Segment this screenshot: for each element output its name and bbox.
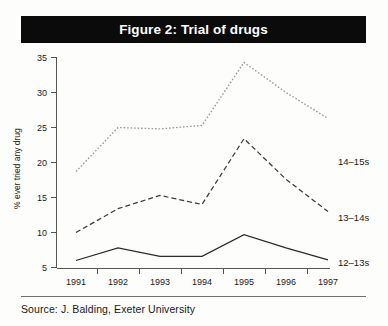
series-line-13-14s [76, 139, 328, 233]
x-tick-label-1994: 1994 [192, 277, 212, 287]
x-tick-label-1993: 1993 [150, 277, 170, 287]
source-divider [21, 296, 366, 297]
chart-plot-area: 35 30 25 20 15 10 5 % ever tried any dru… [0, 44, 388, 289]
y-tick-label-25: 25 [37, 123, 47, 133]
series-label-13-14s: 13–14s [338, 212, 369, 223]
figure-title-bar: Figure 2: Trial of drugs [21, 16, 366, 43]
series-line-12-13s [76, 235, 328, 261]
source-caption: Source: J. Balding, Exeter University [21, 303, 195, 315]
x-tick-label-1996: 1996 [276, 277, 296, 287]
figure-container: Figure 2: Trial of drugs 35 30 25 20 [0, 0, 388, 326]
series-label-12-13s: 12–13s [338, 257, 369, 268]
series-line-14-15s [76, 62, 328, 171]
x-tick-label-1992: 1992 [108, 277, 128, 287]
y-tick-label-30: 30 [37, 88, 47, 98]
y-axis-title: % ever tried any drug [12, 128, 22, 209]
y-tick-label-20: 20 [37, 158, 47, 168]
y-tick-label-15: 15 [37, 193, 47, 203]
x-tick-label-1997: 1997 [318, 277, 338, 287]
y-axis-ticks [51, 58, 56, 268]
y-tick-label-5: 5 [42, 263, 47, 273]
page-title: Figure 2: Trial of drugs [119, 22, 268, 37]
y-tick-label-35: 35 [37, 53, 47, 63]
series-label-14-15s: 14–15s [338, 156, 369, 167]
y-tick-label-10: 10 [37, 228, 47, 238]
x-axis-ticks [98, 269, 308, 274]
x-tick-label-1995: 1995 [234, 277, 254, 287]
line-chart-svg: 35 30 25 20 15 10 5 % ever tried any dru… [0, 44, 388, 289]
x-tick-label-1991: 1991 [66, 277, 86, 287]
